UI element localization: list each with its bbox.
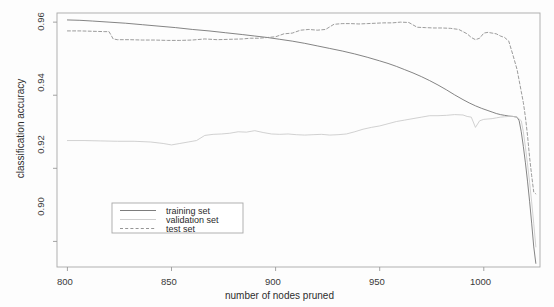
axis-ticks xyxy=(53,22,484,271)
plot-area xyxy=(0,0,554,307)
chart-figure: 0.90 0.92 0.94 0.96 800 850 900 950 1000… xyxy=(0,0,554,307)
ytick-label-3: 0.96 xyxy=(35,7,46,37)
series-line-test-set xyxy=(67,22,535,194)
ytick-label-0: 0.90 xyxy=(35,192,46,222)
legend-label-test-set: test set xyxy=(166,224,195,234)
y-axis-title: classification accuracy xyxy=(15,64,26,194)
ytick-label-2: 0.94 xyxy=(35,68,46,98)
ytick-label-1: 0.92 xyxy=(35,130,46,160)
xtick-label-4: 1000 xyxy=(470,276,491,287)
xtick-label-1: 850 xyxy=(161,276,177,287)
xtick-label-2: 900 xyxy=(265,276,281,287)
xtick-label-0: 800 xyxy=(57,276,73,287)
x-axis-title: number of nodes pruned xyxy=(225,290,334,301)
xtick-label-3: 950 xyxy=(369,276,385,287)
